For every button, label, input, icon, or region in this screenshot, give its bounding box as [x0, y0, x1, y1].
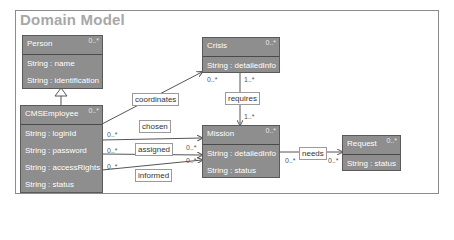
multiplicity-requires-source: 1..* — [244, 76, 255, 83]
class-header: Crisis 0..* — [203, 38, 279, 57]
assoc-label-needs[interactable]: needs — [299, 147, 327, 160]
multiplicity-needs-target: 0..* — [328, 157, 339, 164]
class-multiplicity: 0..* — [265, 39, 276, 46]
class-header: CMSEmployee 0..* — [21, 106, 102, 125]
multiplicity-coordinates-target: 0..* — [207, 76, 218, 83]
multiplicity-assigned-target: 0..* — [186, 144, 197, 151]
assoc-label-coordinates[interactable]: coordinates — [132, 93, 179, 106]
assoc-label-requires[interactable]: requires — [225, 92, 260, 105]
assoc-label-chosen[interactable]: chosen — [139, 120, 171, 133]
class-header: Request 0..* — [343, 136, 400, 155]
multiplicity-informed-source: 0..* — [107, 163, 118, 170]
class-name: CMSEmployee — [25, 109, 78, 118]
class-header: Mission 0..* — [203, 126, 279, 145]
class-name: Crisis — [207, 41, 227, 50]
class-name: Mission — [207, 129, 234, 138]
class-crisis[interactable]: Crisis 0..* String : detailedInfo — [202, 37, 280, 73]
multiplicity-informed-target: 0..* — [186, 157, 197, 164]
class-multiplicity: 0..* — [88, 37, 99, 44]
class-name: Request — [347, 139, 377, 148]
class-attribute[interactable]: String : status — [343, 155, 400, 172]
class-attribute[interactable]: String : status — [203, 162, 279, 179]
multiplicity-assigned-source: 0..* — [107, 147, 118, 154]
class-header: Person 0..* — [23, 36, 102, 55]
class-attribute[interactable]: String : detailedInfo — [203, 57, 279, 74]
class-attribute[interactable]: String : status — [21, 176, 102, 193]
class-multiplicity: 0..* — [386, 137, 397, 144]
class-person[interactable]: Person 0..* String : name String : ident… — [22, 35, 103, 89]
multiplicity-chosen-source: 0..* — [107, 131, 118, 138]
class-cmsemployee[interactable]: CMSEmployee 0..* String : loginId String… — [20, 105, 103, 193]
class-attribute[interactable]: String : identification — [23, 72, 102, 89]
class-attribute[interactable]: String : detailedInfo — [203, 145, 279, 162]
class-multiplicity: 0..* — [88, 107, 99, 114]
generalization-arrow-icon — [55, 88, 67, 96]
class-attribute[interactable]: String : accessRights — [21, 159, 102, 176]
class-attribute[interactable]: String : name — [23, 55, 102, 72]
multiplicity-needs-source: 0..* — [285, 157, 296, 164]
class-name: Person — [27, 39, 52, 48]
class-multiplicity: 0..* — [265, 127, 276, 134]
assoc-label-assigned[interactable]: assigned — [135, 143, 173, 156]
assoc-label-informed[interactable]: informed — [135, 169, 172, 182]
class-attribute[interactable]: String : loginId — [21, 125, 102, 142]
multiplicity-requires-target: 1..* — [244, 113, 255, 120]
class-attribute[interactable]: String : password — [21, 142, 102, 159]
class-mission[interactable]: Mission 0..* String : detailedInfo Strin… — [202, 125, 280, 178]
class-request[interactable]: Request 0..* String : status — [342, 135, 401, 171]
